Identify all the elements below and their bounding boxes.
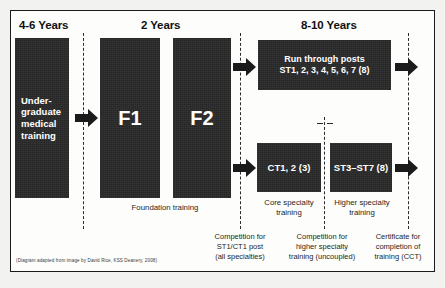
diagram-canvas: 4-6 Years 2 Years 8-10 Years Under- grad… [0,0,445,288]
block-core-training-label: CT1, 2 (3) [268,162,311,174]
caption-core-specialty-line-1: Core specialty [254,198,324,208]
block-f1-label: F1 [118,106,141,130]
block-higher-training-label: ST3–ST7 (8) [334,162,388,174]
caption-competition-st1-line-2: ST1/CT1 post [196,242,284,252]
era-label-foundation: 2 Years [141,19,180,31]
caption-competition-higher-line-1: Competition for [272,232,372,242]
caption-higher-specialty-training: Higher specialty training [326,198,398,219]
block-run-through-posts: Run through posts ST1, 2, 3, 4, 5, 6, 7 … [258,40,391,90]
caption-competition-st1-ct1-post: Competition for ST1/CT1 post (all specia… [196,232,284,262]
block-undergraduate-line-3: medical [21,118,61,130]
block-f2-label: F2 [190,106,213,130]
block-undergraduate-line-2: graduate [21,106,61,118]
caption-core-specialty-training: Core specialty training [254,198,324,219]
caption-competition-higher-line-3: training (uncoupled) [272,252,372,262]
caption-certificate-line-1: Certificate for [362,232,434,242]
caption-core-specialty-line-2: training [254,208,324,218]
caption-competition-st1-line-1: Competition for [196,232,284,242]
caption-competition-higher-line-2: higher specialty [272,242,372,252]
transition-line-gate-3 [324,117,325,229]
caption-certificate-line-2: completion of [362,242,434,252]
caption-certificate-line-3: training (CCT) [362,252,434,262]
caption-higher-specialty-line-1: Higher specialty [326,198,398,208]
era-label-specialty: 8-10 Years [301,19,357,31]
block-run-through-line-2: ST1, 2, 3, 4, 5, 6, 7 (8) [279,65,369,76]
caption-competition-higher-specialty: Competition for higher specialty trainin… [272,232,372,262]
caption-higher-specialty-line-2: training [326,208,398,218]
caption-foundation-training: Foundation training [105,203,225,213]
transition-tick-left-gate-3 [317,123,323,124]
era-label-undergraduate: 4-6 Years [19,19,68,31]
transition-tick-right-gate-3 [327,123,333,124]
block-foundation-year-1: F1 [100,38,160,198]
block-higher-training: ST3–ST7 (8) [330,143,392,192]
arrow-f2-to-core-training [233,158,257,178]
arrow-run-through-to-certificate [395,57,419,77]
transition-line-gate-1 [83,33,84,229]
arrow-higher-training-to-certificate [395,158,419,178]
block-run-through-line-1: Run through posts [279,54,369,65]
caption-certificate-completion-training: Certificate for completion of training (… [362,232,434,262]
block-core-training: CT1, 2 (3) [257,143,321,192]
arrow-f2-to-run-through-posts [233,57,257,77]
block-undergraduate-line-4: training [21,130,61,142]
diagram-credit: (Diagram adapted from image by David Ric… [16,258,157,263]
caption-competition-st1-line-3: (all specialties) [196,252,284,262]
block-undergraduate-medical-training: Under- graduate medical training [15,38,69,198]
block-foundation-year-2: F2 [173,38,231,198]
block-undergraduate-line-1: Under- [21,95,61,107]
arrow-undergraduate-to-f1 [75,108,99,128]
